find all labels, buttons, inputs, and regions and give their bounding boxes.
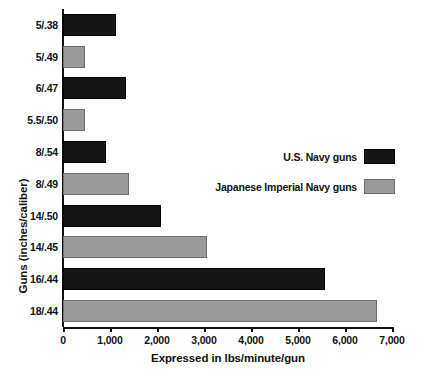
legend-item-us: U.S. Navy guns	[205, 149, 395, 164]
y-axis-tick-label: 5.5/.50	[16, 104, 61, 136]
y-axis-tick-labels: 5/.385/.496/.475.5/.508/.548/.4914/.5014…	[16, 9, 61, 327]
x-axis-tick-label: 3,000	[191, 334, 216, 346]
x-axis-tick-marks	[63, 327, 393, 332]
x-axis-tick-labels: 01,0002,0003,0004,0005,0006,0007,000	[63, 334, 393, 350]
legend-label: Japanese Imperial Navy guns	[215, 181, 357, 193]
y-axis-tick-label: 5/.38	[16, 9, 61, 41]
x-axis-tick-mark	[204, 327, 206, 332]
bar	[63, 300, 377, 322]
x-axis-tick-mark	[63, 327, 65, 332]
bar	[63, 109, 85, 131]
bar	[63, 46, 85, 68]
x-axis-tick-label: 1,000	[97, 334, 122, 346]
bar	[63, 236, 207, 258]
y-axis-tick-label: 16/.44	[16, 263, 61, 295]
y-axis-tick-label: 14/.50	[16, 200, 61, 232]
y-axis-tick-label: 18/.44	[16, 295, 61, 327]
legend-color-swatch	[364, 149, 395, 164]
x-axis-tick-mark	[392, 327, 394, 332]
x-axis-tick-label: 7,000	[379, 334, 404, 346]
x-axis-tick-mark	[157, 327, 159, 332]
bar	[63, 173, 129, 195]
bar-slot	[63, 41, 392, 73]
x-axis-tick-label: 0	[60, 334, 66, 346]
y-axis-tick-label: 6/.47	[16, 73, 61, 105]
bar-slot	[63, 295, 392, 327]
x-axis-tick-mark	[298, 327, 300, 332]
x-axis-tick-mark	[345, 327, 347, 332]
bar	[63, 141, 106, 163]
x-axis-tick-mark	[251, 327, 253, 332]
x-axis-tick-label: 6,000	[332, 334, 357, 346]
x-axis-tick-label: 4,000	[238, 334, 263, 346]
bar	[63, 77, 126, 99]
y-axis-tick-label: 8/.49	[16, 168, 61, 200]
bar-slot	[63, 232, 392, 264]
chart-legend: U.S. Navy gunsJapanese Imperial Navy gun…	[205, 149, 395, 209]
y-axis-tick-label: 8/.54	[16, 136, 61, 168]
bar-slot	[63, 73, 392, 105]
legend-label: U.S. Navy guns	[283, 151, 357, 163]
bar-slot	[63, 9, 392, 41]
bar	[63, 14, 116, 36]
bar	[63, 205, 161, 227]
x-axis-tick-mark	[110, 327, 112, 332]
bar-slot	[63, 104, 392, 136]
y-axis-tick-label: 14/.45	[16, 232, 61, 264]
x-axis-tick-label: 5,000	[285, 334, 310, 346]
x-axis-tick-label: 2,000	[144, 334, 169, 346]
y-axis-tick-label: 5/.49	[16, 41, 61, 73]
bar-chart: Guns (inches/caliber) 5/.385/.496/.475.5…	[0, 0, 427, 381]
legend-color-swatch	[364, 179, 395, 194]
bar	[63, 268, 325, 290]
x-axis-title: Expressed in lbs/minute/gun	[63, 352, 393, 364]
legend-item-jp: Japanese Imperial Navy guns	[205, 179, 395, 194]
bar-slot	[63, 263, 392, 295]
